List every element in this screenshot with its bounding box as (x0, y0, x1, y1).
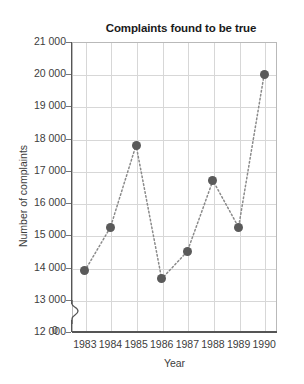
x-axis-tick-label: 1983 (73, 338, 96, 350)
y-axis-tick-label: 18 000 (34, 132, 66, 144)
y-axis-tick-label: 21 000 (34, 35, 66, 47)
x-axis-tick-label: 1985 (124, 338, 147, 350)
y-axis-tick-label: 20 000 (34, 67, 66, 79)
x-axis-tick-label: 1990 (253, 338, 276, 350)
y-axis-tick-mark (66, 300, 71, 301)
y-axis-tick-mark (66, 235, 71, 236)
data-point-marker (183, 247, 192, 256)
series-polyline (85, 74, 264, 279)
data-point-marker (106, 223, 115, 232)
data-point-marker (234, 223, 243, 232)
y-axis-tick-mark (66, 332, 71, 333)
y-axis-tick-label: 19 000 (34, 99, 66, 111)
chart-title: Complaints found to be true (78, 22, 284, 34)
y-axis-title: Number of complaints (17, 121, 29, 271)
x-axis-tick-label: 1987 (176, 338, 199, 350)
y-axis-tick-mark (66, 268, 71, 269)
y-axis-tick-label: 15 000 (34, 228, 66, 240)
data-series-line (72, 42, 277, 332)
x-axis-tick-label: 1988 (201, 338, 224, 350)
data-point-marker (260, 70, 269, 79)
data-point-marker (132, 141, 141, 150)
y-axis-tick-mark (66, 42, 71, 43)
x-axis-tick-label: 1989 (227, 338, 250, 350)
y-axis-tick-label: 17 000 (34, 164, 66, 176)
y-axis-tick-mark (66, 171, 71, 172)
y-axis-tick-label: 13 000 (34, 293, 66, 305)
x-axis-title: Year (72, 357, 277, 369)
chart-container: Complaints found to be true 21 00020 000… (0, 0, 304, 384)
x-axis-tick-label: 1986 (150, 338, 173, 350)
y-axis-tick-mark (66, 74, 71, 75)
y-axis-tick-mark (66, 203, 71, 204)
y-axis-zero-label: 0 (52, 324, 58, 336)
y-axis-tick-label: 16 000 (34, 196, 66, 208)
x-axis-tick-label: 1984 (99, 338, 122, 350)
y-axis-tick-label: 14 000 (34, 261, 66, 273)
y-axis-tick-mark (66, 139, 71, 140)
y-axis-tick-mark (66, 106, 71, 107)
y-axis-tick-label: 12 000 (34, 325, 66, 337)
